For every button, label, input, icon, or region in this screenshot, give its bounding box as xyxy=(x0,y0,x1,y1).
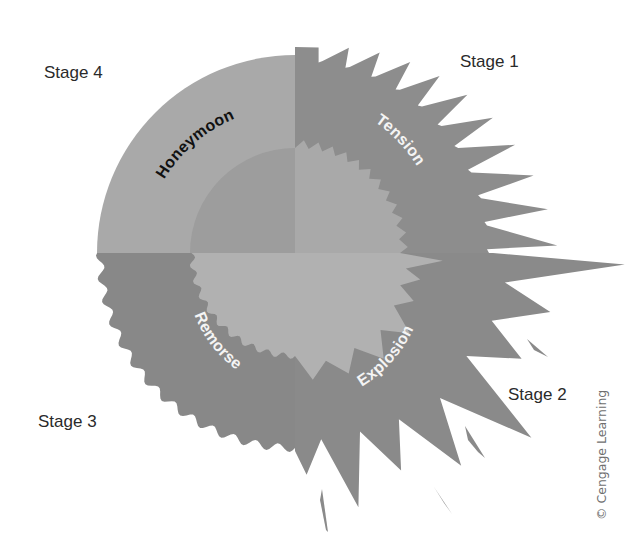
shard xyxy=(465,426,485,458)
shard xyxy=(527,339,548,357)
stage-2-label: Stage 2 xyxy=(508,385,567,405)
stage-1-label: Stage 1 xyxy=(460,52,519,72)
stage-3-label: Stage 3 xyxy=(38,412,97,432)
shard xyxy=(320,489,328,532)
shard xyxy=(434,487,452,514)
copyright-credit: © Cengage Learning xyxy=(594,390,609,520)
stage-4-label: Stage 4 xyxy=(44,63,103,83)
